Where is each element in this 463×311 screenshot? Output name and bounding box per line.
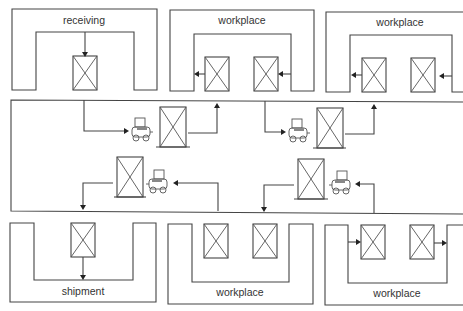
arrow-left-icon (351, 72, 356, 78)
pallet-icon (160, 107, 186, 147)
pallet-icon (205, 57, 229, 91)
zone-label-workplace: workplace (372, 287, 420, 299)
arrow-right-icon (281, 129, 286, 135)
pallet-icon (117, 157, 143, 197)
zone-label-workplace: workplace (375, 16, 423, 28)
arrow-down-icon (80, 205, 86, 210)
zone-workplace-top-2: workplace (326, 12, 463, 92)
zone-label-workplace: workplace (215, 286, 263, 298)
zone-workplace-top-1: workplace (170, 10, 314, 91)
forklift-icon (132, 118, 153, 141)
arrow-left-icon (278, 71, 283, 77)
pallet-icon (204, 224, 228, 258)
forklift-icon (289, 119, 310, 142)
arrow-left-icon (439, 73, 444, 79)
arrow-right-icon (442, 240, 447, 246)
zone-workplace-bottom-1: workplace (168, 224, 313, 304)
zone-workplace-bottom-2: workplace (325, 225, 463, 305)
arrow-right-icon (356, 239, 361, 245)
pallet-icon (361, 225, 385, 259)
warehouse-flow-diagram: receiving workplace workplace (0, 0, 463, 311)
zone-label-shipment: shipment (62, 285, 105, 297)
pallet-icon (253, 224, 277, 258)
pallet-icon (317, 108, 343, 148)
zone-shipment: shipment (10, 223, 156, 302)
arrow-down-icon (261, 207, 267, 212)
zone-receiving: receiving (12, 9, 157, 90)
pallet-icon (410, 225, 434, 259)
arrow-right-icon (124, 128, 129, 134)
pallet-icon (362, 58, 386, 92)
forklift-icon (329, 171, 350, 194)
arrow-left-icon (355, 181, 360, 187)
pallet-icon (73, 56, 97, 90)
pallet-icon (298, 159, 324, 199)
arrow-up-icon (371, 104, 377, 109)
aisle (11, 100, 463, 214)
arrow-up-icon (214, 103, 220, 108)
zone-label-receiving: receiving (63, 14, 105, 26)
forklift-icon (146, 170, 167, 193)
arrow-down-icon (80, 275, 86, 280)
arrow-left-icon (194, 71, 199, 77)
arrow-left-icon (173, 180, 178, 186)
zone-label-workplace: workplace (217, 14, 265, 26)
pallet-icon (71, 223, 95, 257)
pallet-icon (254, 57, 278, 91)
pallet-icon (411, 58, 435, 92)
